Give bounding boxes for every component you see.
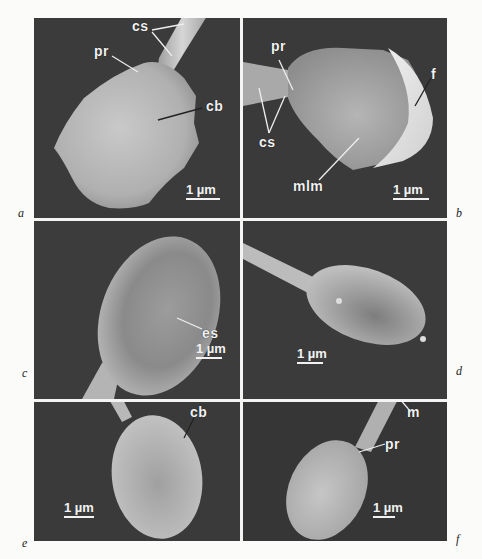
- scale-bar: 1 µm: [393, 182, 429, 200]
- scale-bar: 1 µm: [64, 500, 94, 518]
- panel-letter-e: e: [22, 536, 27, 551]
- panel-d: 1 µm: [243, 221, 447, 399]
- label-m: m: [407, 404, 420, 420]
- scale-bar: 1 µm: [186, 182, 220, 200]
- label-cs: cs: [259, 134, 276, 150]
- scale-bar-label: 1 µm: [196, 341, 226, 356]
- label-cb: cb: [190, 404, 207, 420]
- scale-bar-label: 1 µm: [373, 500, 403, 515]
- panel-letter-c: c: [22, 366, 27, 381]
- label-es: es: [202, 325, 219, 341]
- scale-bar-label: 1 µm: [64, 500, 94, 515]
- scale-bar-label: 1 µm: [297, 346, 327, 361]
- label-pr: pr: [271, 38, 286, 54]
- scale-bar-line: [186, 198, 220, 200]
- label-cb: cb: [206, 98, 223, 114]
- specimen-d-image: [243, 221, 447, 399]
- panel-f: m pr 1 µm: [243, 402, 447, 541]
- scale-bar-line: [373, 516, 395, 518]
- specimen-c-image: [34, 221, 240, 399]
- scale-bar-label: 1 µm: [186, 182, 216, 197]
- specimen-f-image: [243, 402, 447, 541]
- micrograph-figure: cs pr cb 1 µm: [34, 18, 447, 541]
- label-mlm: mlm: [293, 178, 323, 194]
- scale-bar-label: 1 µm: [393, 182, 423, 197]
- panel-c: es 1 µm: [34, 221, 240, 399]
- panel-b: pr f cs mlm 1 µm: [243, 18, 447, 218]
- panel-a: cs pr cb 1 µm: [34, 18, 240, 218]
- scale-bar-line: [393, 198, 429, 200]
- panel-letter-a: a: [18, 206, 24, 221]
- scale-bar: 1 µm: [297, 346, 327, 364]
- scale-bar: 1 µm: [373, 500, 403, 518]
- scale-bar-line: [196, 357, 222, 359]
- panel-e: cb 1 µm: [34, 402, 240, 541]
- panel-letter-d: d: [456, 364, 462, 379]
- scale-bar-line: [297, 362, 323, 364]
- label-cs: cs: [132, 18, 149, 34]
- specimen-e-image: [34, 402, 240, 541]
- panel-letter-b: b: [456, 206, 462, 221]
- scale-bar: 1 µm: [196, 341, 226, 359]
- label-pr: pr: [94, 43, 109, 59]
- panel-letter-f: f: [456, 532, 459, 547]
- label-f: f: [431, 66, 436, 82]
- label-pr: pr: [385, 436, 400, 452]
- scale-bar-line: [64, 516, 94, 518]
